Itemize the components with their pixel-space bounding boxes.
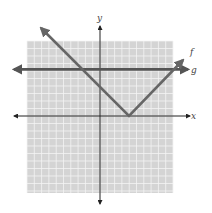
f-label: f (189, 47, 195, 57)
y-axis-label: y (96, 13, 103, 23)
x-axis-label: x (191, 111, 196, 121)
graph: y x f g (0, 0, 212, 213)
g-label: g (191, 65, 197, 75)
